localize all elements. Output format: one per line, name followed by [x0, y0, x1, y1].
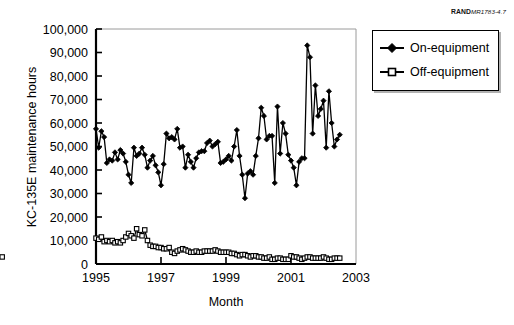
- x-axis-title: Month: [96, 295, 356, 309]
- legend-item-on-equipment[interactable]: On-equipment: [379, 36, 489, 60]
- svg-text:2001: 2001: [277, 271, 305, 285]
- svg-text:70,000: 70,000: [50, 93, 88, 107]
- svg-text:1997: 1997: [147, 271, 175, 285]
- svg-text:2003: 2003: [342, 271, 370, 285]
- y-axis-title: KC-135E maintenance hours: [25, 47, 39, 247]
- svg-text:30,000: 30,000: [50, 187, 88, 201]
- svg-text:10,000: 10,000: [50, 234, 88, 248]
- legend-label-on-equipment: On-equipment: [410, 42, 489, 55]
- svg-text:40,000: 40,000: [50, 164, 88, 178]
- svg-text:100,000: 100,000: [43, 23, 88, 37]
- svg-text:1995: 1995: [82, 271, 110, 285]
- figure-container: RANDMR1783-4.7 010,00020,00030,00040,000…: [0, 0, 514, 325]
- filled-diamond-icon: [379, 41, 405, 55]
- svg-text:20,000: 20,000: [50, 211, 88, 225]
- svg-text:60,000: 60,000: [50, 117, 88, 131]
- svg-text:80,000: 80,000: [50, 70, 88, 84]
- svg-text:50,000: 50,000: [50, 140, 88, 154]
- open-square-icon: [379, 65, 405, 79]
- legend-item-off-equipment[interactable]: Off-equipment: [379, 60, 489, 84]
- svg-text:0: 0: [81, 258, 88, 272]
- svg-text:1999: 1999: [212, 271, 240, 285]
- svg-text:90,000: 90,000: [50, 46, 88, 60]
- legend-label-off-equipment: Off-equipment: [410, 66, 489, 79]
- chart-legend: On-equipment Off-equipment: [372, 30, 499, 91]
